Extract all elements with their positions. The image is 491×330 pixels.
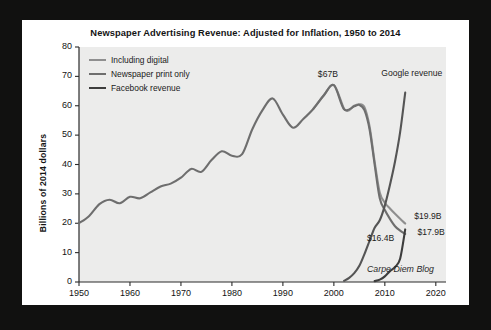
x-tick-label: 2000 — [312, 288, 356, 298]
y-tick-label: 50 — [44, 129, 72, 139]
annotation-facebook-end: $17.9B — [417, 227, 444, 237]
y-tick-label: 70 — [44, 70, 72, 80]
y-tick-label: 30 — [44, 188, 72, 198]
y-tick-label: 60 — [44, 100, 72, 110]
x-tick-label: 1950 — [57, 288, 101, 298]
x-tick-label: 2020 — [414, 288, 458, 298]
legend-swatch-icon — [89, 87, 106, 89]
legend-swatch-icon — [89, 59, 106, 61]
legend-item-label: Including digital — [111, 55, 169, 65]
x-tick-label: 2010 — [363, 288, 407, 298]
legend-item-2[interactable]: Facebook revenue — [89, 83, 180, 93]
x-tick-label: 1990 — [261, 288, 305, 298]
annotation-including-digital-end: $19.9B — [414, 211, 441, 221]
legend-item-1[interactable]: Newspaper print only — [89, 69, 190, 79]
annotation-peak-label: $67B — [318, 69, 338, 79]
watermark-text: Carpe Diem Blog — [367, 264, 434, 274]
legend-swatch-icon — [89, 73, 106, 75]
legend-item-label: Newspaper print only — [111, 69, 190, 79]
series-group — [79, 85, 405, 281]
legend-item-0[interactable]: Including digital — [89, 55, 169, 65]
annotation-print-only-end: $16.4B — [367, 233, 394, 243]
series-line-newspaper-print-only — [79, 85, 405, 234]
y-tick-label: 80 — [44, 41, 72, 51]
chart-card: Newspaper Advertising Revenue: Adjusted … — [22, 20, 469, 305]
annotation-google-label: Google revenue — [381, 68, 442, 78]
legend-item-label: Facebook revenue — [111, 83, 180, 93]
series-line-google-revenue — [344, 93, 405, 281]
y-tick-label: 20 — [44, 217, 72, 227]
x-tick-label: 1960 — [108, 288, 152, 298]
y-tick-label: 10 — [44, 247, 72, 257]
y-tick-label: 0 — [44, 276, 72, 286]
x-tick-label: 1980 — [210, 288, 254, 298]
x-tick-label: 1970 — [159, 288, 203, 298]
y-tick-label: 40 — [44, 159, 72, 169]
image-frame: Newspaper Advertising Revenue: Adjusted … — [0, 0, 491, 330]
